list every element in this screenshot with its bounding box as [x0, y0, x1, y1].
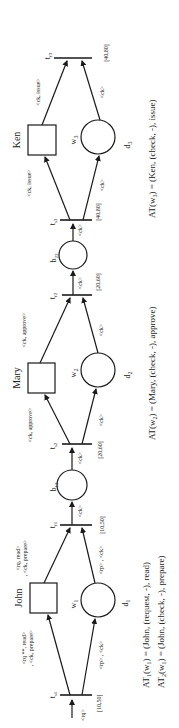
arc-label-tf1-out: <ck> — [77, 504, 83, 517]
svg-text:b12: b12 — [49, 482, 59, 492]
mary-resource-box — [28, 363, 55, 393]
svg-text:d2: d2 — [123, 372, 133, 379]
svg-text:d1: d1 — [121, 600, 131, 607]
w3-sub: 3 — [73, 136, 79, 139]
svg-text:d3: d3 — [123, 142, 133, 149]
svg-text:ts3: ts3 — [48, 218, 58, 225]
arc-label-john-out-1: <rq, read> — [15, 545, 21, 571]
arc-ts1-john — [48, 615, 70, 695]
arc-label-d2-out: <ck> — [98, 323, 104, 336]
ts3-sub: s3 — [53, 218, 58, 223]
arc-label-mary-out: <ck, approve> — [21, 312, 27, 347]
john-label: John — [13, 589, 24, 608]
tf1-sub: f1 — [53, 521, 58, 526]
workflow-diagram: John Mary Ken w1 w2 w3 d1 d2 d3 ts1 tf1 … — [0, 0, 179, 728]
arc-label-d1-out: <rp> , <ck> — [98, 545, 104, 574]
b12-sub: 12 — [54, 482, 59, 488]
ts3-interval: [40,80] — [95, 203, 102, 221]
ts2-sub: s2 — [53, 442, 58, 447]
assignment-at1-w1: AT1(w1) = (John, (request, -), read) — [141, 562, 152, 688]
tf2-sub: f2 — [53, 292, 58, 297]
svg-text:b23: b23 — [49, 253, 59, 263]
b12-buffer-place — [57, 470, 87, 500]
arc-d1-tf1 — [82, 528, 95, 583]
arc-label-input-rq: <rq> — [80, 709, 86, 721]
d3-place — [81, 120, 115, 154]
assignment-at-w3: AT(w3) = (Ken, (check, -), issue) — [147, 99, 158, 218]
tf3-sub: f3 — [48, 52, 53, 57]
arc-label-ken-out: <ck, issue> — [35, 78, 41, 106]
arc-ts1-d1 — [82, 619, 95, 695]
arc-label-ken-in: <ck, issue> — [26, 169, 32, 197]
arc-ts2-d2 — [82, 389, 96, 444]
arc-label-d3-out: <ck> — [99, 85, 105, 98]
w2-sub: 2 — [73, 369, 79, 372]
svg-text:tf3: tf3 — [43, 52, 53, 59]
ts1-sub: s1 — [53, 691, 58, 696]
arc-label-ts2-in: <ck> — [77, 451, 83, 464]
arc-label-d3-in: <ck> — [99, 178, 105, 191]
d3-sub: 3 — [127, 142, 133, 145]
ken-resource-box — [28, 125, 56, 155]
mary-label: Mary — [11, 367, 22, 389]
b23-sub: 23 — [54, 253, 59, 259]
arc-ts2-mary — [45, 395, 70, 444]
svg-text:w2: w2 — [69, 369, 79, 378]
assignment-at-w2: AT(w2) = (Mary, (check, -), approve) — [147, 307, 158, 440]
tf1-interval: [10,50] — [99, 516, 106, 534]
arc-ts3-ken — [45, 157, 70, 220]
arc-label-john-in-1: <rq **, read> — [21, 631, 27, 664]
arc-d3-tf3 — [82, 61, 100, 120]
arc-label-d1-in: <rp> , <ck> — [98, 640, 104, 669]
d2-sub: 2 — [127, 372, 133, 375]
svg-text:ts2: ts2 — [48, 442, 58, 449]
d2-place — [81, 353, 115, 387]
arc-mary-tf2 — [40, 298, 70, 363]
arc-label-john-in-2: , <ck, prepare> — [28, 629, 34, 666]
svg-text:tf2: tf2 — [48, 292, 58, 299]
ts1-interval: [10,50] — [96, 695, 103, 713]
svg-text:ts1: ts1 — [48, 691, 58, 698]
svg-text:w3: w3 — [69, 136, 79, 145]
arc-label-ts3-in: <ck> — [77, 223, 83, 236]
arc-ken-tf3 — [42, 61, 67, 125]
arc-label-tf2-out: <ck> — [77, 276, 83, 289]
w1-sub: 1 — [73, 600, 79, 603]
arc-label-john-out-2: , <ck, prepare> — [22, 539, 28, 576]
assignment-at2-w1: AT2(w1) = (John, (check, -), prepare) — [156, 555, 167, 688]
d1-sub: 1 — [125, 600, 131, 603]
tf2-interval: [20,60] — [95, 273, 102, 291]
d1-place — [81, 583, 115, 617]
arc-john-tf1 — [44, 528, 70, 583]
svg-text:tf1: tf1 — [48, 521, 58, 528]
ts2-interval: [20,60] — [97, 441, 104, 459]
john-resource-box — [30, 583, 57, 613]
arc-label-d2-in: <ck> — [98, 413, 104, 426]
arc-label-mary-in: <ck, approve> — [27, 407, 33, 442]
tf3-interval: [40,80] — [103, 44, 110, 62]
b23-buffer-place — [59, 241, 87, 269]
svg-text:w1: w1 — [69, 600, 79, 609]
arc-d2-tf2 — [83, 298, 98, 353]
ken-label: Ken — [11, 132, 22, 149]
